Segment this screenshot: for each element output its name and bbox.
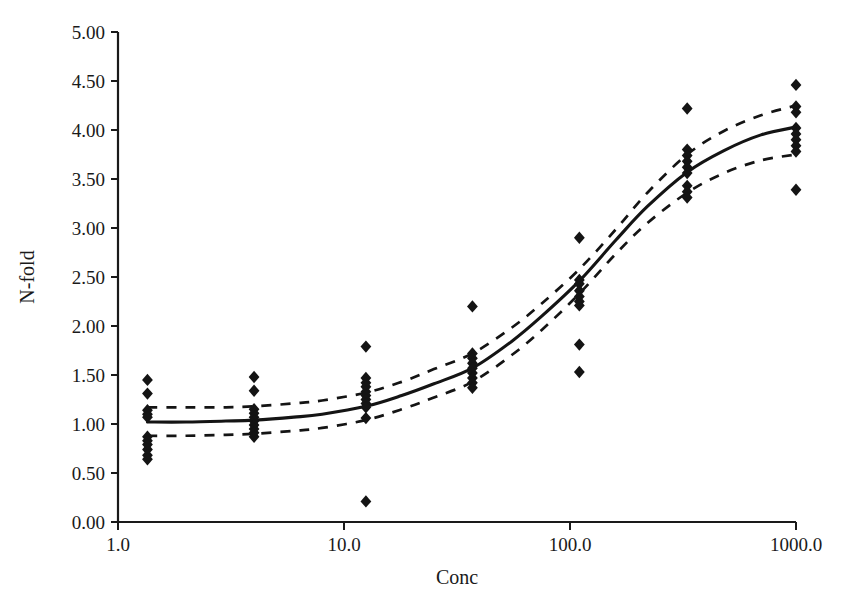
data-point-marker: [574, 338, 585, 350]
axes-layer: 0.000.501.001.502.002.503.003.504.004.50…: [72, 22, 822, 556]
data-point-marker: [249, 384, 260, 396]
y-tick-label: 0.00: [72, 512, 105, 533]
x-axis-title: Conc: [436, 566, 478, 588]
y-tick-label: 4.00: [72, 120, 105, 141]
data-point-marker: [249, 371, 260, 383]
y-tick-label: 1.00: [72, 414, 105, 435]
data-point-marker: [361, 495, 372, 507]
data-point-marker: [142, 374, 153, 386]
confidence-band-line: [147, 155, 796, 436]
x-tick-label: 100.0: [549, 534, 592, 555]
x-tick-label: 1000.0: [770, 534, 822, 555]
y-axis-title: N-fold: [16, 250, 38, 303]
chart-container: 0.000.501.001.502.002.503.003.504.004.50…: [0, 0, 860, 606]
y-tick-label: 0.50: [72, 463, 105, 484]
y-axis-ticks: 0.000.501.001.502.002.503.003.504.004.50…: [72, 22, 118, 533]
data-point-marker: [361, 412, 372, 424]
y-tick-label: 5.00: [72, 22, 105, 43]
dose-response-chart: 0.000.501.001.502.002.503.003.504.004.50…: [0, 0, 860, 606]
y-tick-label: 3.50: [72, 169, 105, 190]
x-tick-label: 1.0: [106, 534, 130, 555]
data-point-marker: [791, 184, 802, 196]
x-tick-label: 10.0: [327, 534, 360, 555]
data-point-marker: [361, 340, 372, 352]
data-point-marker: [574, 232, 585, 244]
y-tick-label: 3.00: [72, 218, 105, 239]
data-point-marker: [791, 79, 802, 91]
y-tick-label: 1.50: [72, 365, 105, 386]
y-tick-label: 2.00: [72, 316, 105, 337]
data-point-marker: [574, 366, 585, 378]
data-point-marker: [142, 387, 153, 399]
x-axis-ticks: 1.010.0100.01000.0: [106, 522, 822, 555]
data-point-marker: [467, 300, 478, 312]
y-tick-label: 2.50: [72, 267, 105, 288]
data-point-marker: [682, 102, 693, 114]
y-tick-label: 4.50: [72, 71, 105, 92]
